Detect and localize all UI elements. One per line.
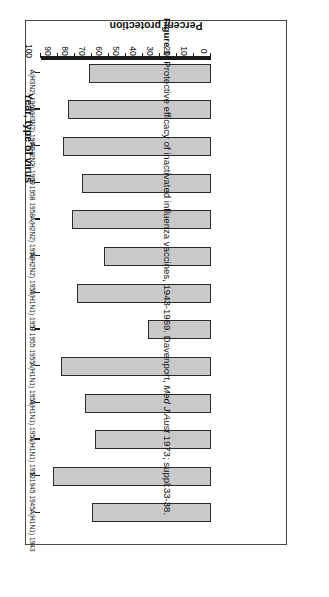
caption-wrapper: Figure 1: Protective efficacy of inactiv…	[0, 0, 329, 597]
caption-label: Figure 1:	[162, 18, 173, 59]
caption-tail: 1973; suppl:33-38.	[162, 433, 173, 515]
caption-journal: Med J Aust	[162, 385, 173, 433]
rotated-figure-container: 1009080706050403020100 Percent protectio…	[0, 0, 329, 597]
figure-caption: Figure 1: Protective efficacy of inactiv…	[160, 18, 174, 578]
figure-page: 1009080706050403020100 Percent protectio…	[0, 0, 329, 597]
caption-text: Protective efficacy of inactivated influ…	[162, 59, 173, 386]
